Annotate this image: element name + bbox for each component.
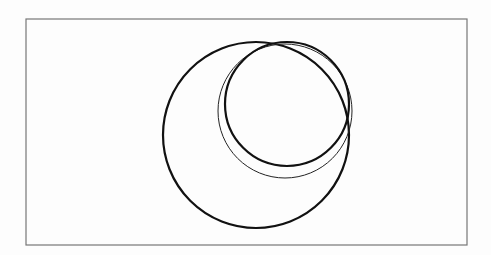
thin-circle [218,44,352,178]
small-circle [225,42,349,166]
large-circle [163,42,349,228]
figure-frame [26,19,467,245]
circles-figure [0,0,491,255]
